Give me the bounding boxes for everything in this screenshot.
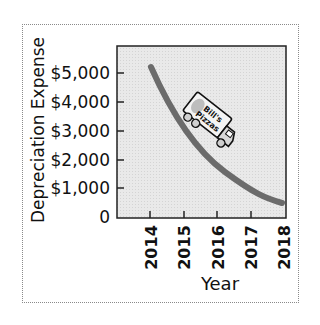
plot-area: Bill's Pizzas [0,0,320,325]
x-axis-title-text: Year [201,273,239,294]
